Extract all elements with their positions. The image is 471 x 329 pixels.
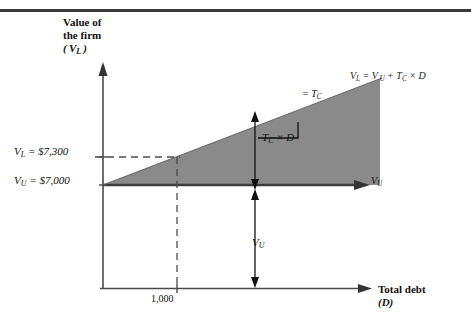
vl-amount: = $7,300 (25, 145, 68, 157)
y-axis-title: Value of the firm ( VL ) (63, 16, 101, 56)
y-axis-title-line1: Value of (63, 16, 101, 29)
slope-label: = TC (302, 88, 322, 101)
chart-figure: Value of the firm ( VL ) Total debt (D) … (0, 0, 471, 329)
vu-symbol: V (14, 174, 21, 186)
x-axis-title-line1: Total debt (378, 283, 426, 296)
x-axis-tick-label-1000: 1,000 (151, 293, 174, 305)
vu-arrowhead-top (251, 189, 259, 200)
x-axis-arrowhead (358, 284, 372, 293)
x-axis-title: Total debt (D) (378, 283, 426, 309)
vl-symbol: V (14, 145, 21, 157)
vu-amount: = $7,000 (26, 174, 69, 186)
levered-value-equation-label: VL = V U + TC × D (350, 70, 426, 83)
vu-arrowhead-bottom (251, 277, 259, 288)
vu-line-label: VU (371, 175, 382, 188)
x-axis-title-line2: (D) (378, 296, 426, 309)
y-axis-arrowhead (99, 62, 108, 76)
y-axis-title-line3: ( VL ) (63, 42, 101, 56)
y-axis-title-line2: the firm (63, 29, 101, 42)
y-axis-title-subscript: L (76, 47, 81, 56)
tax-shield-arrowhead-top (251, 111, 259, 122)
vl-value-label: VL = $7,300 (14, 145, 68, 159)
vu-value-label: VU = $7,000 (14, 174, 70, 188)
vu-measure-label: VU (252, 236, 264, 250)
tax-shield-label: TC × D (262, 131, 294, 145)
